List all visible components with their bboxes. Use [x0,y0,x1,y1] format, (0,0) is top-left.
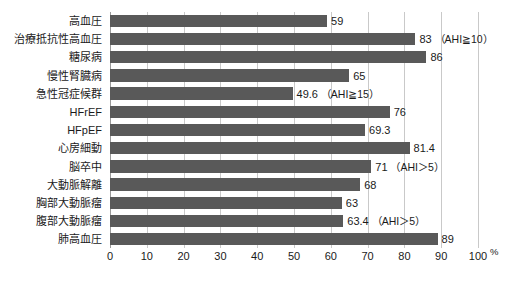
bar-row: 59 [110,12,478,30]
bar-value-label: 81.4 [414,140,435,156]
bar [110,178,360,190]
bar [110,33,415,45]
x-tick-70: 70 [361,250,373,262]
bar-row: 83 （AHI≧10） [110,30,478,48]
category-label: 治療抵抗性高血圧 [14,30,102,48]
bar [110,51,426,63]
category-label: 大動脈解離 [47,176,102,194]
x-axis-tick-labels: 0102030405060708090100 [110,250,478,270]
bar-value-label: 69.3 [369,122,390,138]
category-label: 腹部大動脈瘤 [36,212,102,230]
bar-value-label: 59 [331,13,343,29]
category-label: 高血圧 [69,12,102,30]
bar [110,69,349,81]
category-label: HFpEF [67,121,102,139]
bar-row: 63 [110,194,478,212]
bar-row: 49.6 （AHI≧15） [110,85,478,103]
category-label: 慢性腎臓病 [47,67,102,85]
plot-area: 5983 （AHI≧10）866549.6 （AHI≧15）7669.381.4… [110,12,478,248]
bar-value-label: 86 [430,49,442,65]
category-label: 脳卒中 [69,158,102,176]
bar-row: 76 [110,103,478,121]
bar-value-label: 49.6 （AHI≧15） [297,86,379,102]
bar-row: 69.3 [110,121,478,139]
bar-row: 65 [110,67,478,85]
category-label: 急性冠症候群 [36,85,102,103]
bar [110,124,365,136]
category-label: HFrEF [70,103,102,121]
bar-value-label: 63.4 （AHI＞5） [347,213,425,229]
bar-annotation: （AHI≧15） [318,88,379,100]
bar [110,197,342,209]
bar-row: 86 [110,48,478,66]
x-axis-unit-label: % [490,246,498,257]
bar-row: 68 [110,176,478,194]
bar [110,233,438,245]
bar-annotation: （AHI≧10） [432,33,493,45]
bar [110,160,371,172]
x-tick-80: 80 [398,250,410,262]
bar-chart: 高血圧治療抵抗性高血圧糖尿病慢性腎臓病急性冠症候群HFrEFHFpEF心房細動脳… [0,0,513,288]
bar-value-label: 68 [364,177,376,193]
category-label: 糖尿病 [69,48,102,66]
x-tick-10: 10 [141,250,153,262]
x-tick-100: 100 [469,250,487,262]
bar [110,15,327,27]
bar-value-label: 63 [346,195,358,211]
bar [110,106,390,118]
bar [110,142,410,154]
bar-row: 89 [110,230,478,248]
bar-value-label: 89 [442,231,454,247]
bar-row: 63.4 （AHI＞5） [110,212,478,230]
bar-value-label: 76 [394,104,406,120]
bar-annotation: （AHI＞5） [369,215,425,227]
bar [110,215,343,227]
category-label: 胸部大動脈瘤 [36,194,102,212]
x-tick-60: 60 [325,250,337,262]
x-tick-20: 20 [177,250,189,262]
bar-value-label: 71 （AHI＞5） [375,159,444,175]
x-tick-50: 50 [288,250,300,262]
bar-annotation: （AHI＞5） [388,161,444,173]
bar-rows: 5983 （AHI≧10）866549.6 （AHI≧15）7669.381.4… [110,12,478,248]
bar-row: 81.4 [110,139,478,157]
bar-value-label: 65 [353,68,365,84]
gridline-100 [478,12,479,248]
category-label: 心房細動 [58,139,102,157]
x-tick-0: 0 [107,250,113,262]
x-tick-90: 90 [435,250,447,262]
bar-row: 71 （AHI＞5） [110,158,478,176]
category-axis-labels: 高血圧治療抵抗性高血圧糖尿病慢性腎臓病急性冠症候群HFrEFHFpEF心房細動脳… [0,12,106,248]
bar [110,87,293,99]
x-tick-30: 30 [214,250,226,262]
category-label: 肺高血圧 [58,230,102,248]
bar-value-label: 83 （AHI≧10） [419,31,492,47]
x-tick-40: 40 [251,250,263,262]
